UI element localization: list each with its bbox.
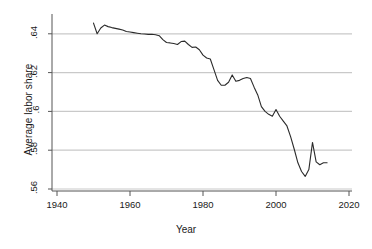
line-chart-plot [0,0,372,249]
x-tick-label: 1940 [35,199,79,210]
x-axis-title: Year [0,224,372,235]
y-tick-label: .62 [6,66,40,77]
chart-figure: Average labor share Year .56.58.6.62.64 … [0,0,372,249]
y-tick-label: .56 [6,182,40,193]
x-tick-label: 2000 [254,199,298,210]
axis-lines [52,14,352,191]
x-tick-label: 1960 [108,199,152,210]
y-axis-ticks [48,34,52,189]
x-tick-label: 2020 [327,199,371,210]
y-tick-label: .64 [6,27,40,38]
series-line-average-labor-share [94,23,328,176]
x-tick-label: 1980 [181,199,225,210]
y-tick-label: .58 [6,143,40,154]
x-axis-ticks [57,191,349,196]
y-tick-label: .6 [6,104,40,115]
gridlines [52,34,352,189]
